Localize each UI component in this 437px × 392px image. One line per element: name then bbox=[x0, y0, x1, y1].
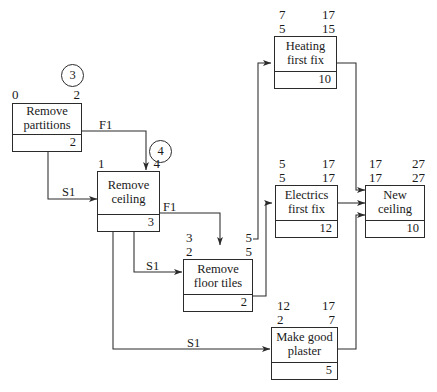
node-remove-floor-tiles[interactable]: Remove floor tiles 2 bbox=[183, 259, 253, 312]
remove-floor-tiles-duration: 2 bbox=[184, 294, 252, 311]
new-ceiling-late-finish: 27 bbox=[393, 171, 425, 184]
node-remove-ceiling[interactable]: Remove ceiling 3 bbox=[97, 171, 160, 232]
remove-ceiling-name-line1: Remove bbox=[108, 179, 150, 192]
remove-floor-tiles-late-start: 2 bbox=[186, 245, 193, 258]
heating-first-fix-late-finish: 15 bbox=[303, 22, 335, 35]
electrics-first-fix-early-start: 5 bbox=[279, 157, 286, 170]
heating-first-fix-label: Heating first fix bbox=[275, 37, 336, 71]
make-good-plaster-name-line1: Make good bbox=[276, 331, 333, 344]
remove-floor-tiles-name-line2: floor tiles bbox=[194, 277, 242, 290]
link-label-partitions-to-ceiling-finish: F1 bbox=[99, 119, 112, 132]
new-ceiling-name-line1: New bbox=[383, 189, 407, 202]
link-label-partitions-to-ceiling-start: S1 bbox=[62, 186, 75, 199]
electrics-first-fix-label: Electrics first fix bbox=[276, 186, 337, 220]
heating-first-fix-name-line1: Heating bbox=[286, 40, 326, 53]
remove-partitions-name-line1: Remove bbox=[26, 105, 68, 118]
new-ceiling-early-finish: 27 bbox=[393, 157, 425, 170]
new-ceiling-early-start: 17 bbox=[369, 157, 382, 170]
wire-floor-tiles-to-heating bbox=[253, 63, 271, 239]
new-ceiling-late-start: 17 bbox=[369, 171, 382, 184]
node-make-good-plaster[interactable]: Make good plaster 5 bbox=[271, 327, 338, 380]
remove-ceiling-duration: 3 bbox=[98, 214, 159, 231]
make-good-plaster-name-line2: plaster bbox=[288, 345, 321, 358]
wire-plaster-to-new-ceiling bbox=[338, 215, 365, 349]
remove-ceiling-early-start: 1 bbox=[98, 157, 105, 170]
electrics-first-fix-late-start: 5 bbox=[279, 171, 286, 184]
wire-heating-to-new-ceiling bbox=[337, 63, 365, 190]
link-label-ceiling-to-plaster-start: S1 bbox=[187, 337, 200, 350]
node-new-ceiling[interactable]: New ceiling 10 bbox=[365, 185, 425, 238]
node-heating-first-fix[interactable]: Heating first fix 10 bbox=[274, 36, 337, 89]
remove-ceiling-float-circle: 4 bbox=[149, 140, 172, 163]
remove-partitions-name-line2: partitions bbox=[23, 119, 70, 132]
make-good-plaster-late-finish: 7 bbox=[303, 313, 335, 326]
heating-first-fix-duration: 10 bbox=[275, 71, 336, 88]
new-ceiling-label: New ceiling bbox=[366, 186, 424, 220]
remove-partitions-float-circle: 3 bbox=[61, 64, 84, 87]
link-label-ceiling-to-floor-tiles-finish: F1 bbox=[163, 201, 176, 214]
node-remove-partitions[interactable]: Remove partitions 2 bbox=[12, 103, 82, 152]
heating-first-fix-early-start: 7 bbox=[279, 8, 286, 21]
wire-floor-tiles-to-electrics bbox=[253, 203, 272, 296]
electrics-first-fix-duration: 12 bbox=[276, 220, 337, 237]
remove-ceiling-label: Remove ceiling bbox=[98, 172, 159, 214]
new-ceiling-duration: 10 bbox=[366, 220, 424, 237]
make-good-plaster-early-start: 12 bbox=[277, 299, 290, 312]
precedence-network-diagram: 0 2 3 Remove partitions 2 1 4 4 Remove c… bbox=[0, 0, 437, 392]
link-label-ceiling-to-floor-tiles-start: S1 bbox=[146, 260, 159, 273]
electrics-first-fix-name-line1: Electrics bbox=[285, 189, 329, 202]
remove-partitions-duration: 2 bbox=[13, 134, 81, 151]
remove-partitions-label: Remove partitions bbox=[13, 104, 81, 134]
make-good-plaster-label: Make good plaster bbox=[272, 328, 337, 362]
heating-first-fix-early-finish: 17 bbox=[303, 8, 335, 21]
heating-first-fix-late-start: 5 bbox=[279, 22, 286, 35]
remove-floor-tiles-label: Remove floor tiles bbox=[184, 260, 252, 294]
remove-floor-tiles-early-finish: 5 bbox=[220, 231, 252, 244]
electrics-first-fix-name-line2: first fix bbox=[288, 203, 325, 216]
make-good-plaster-duration: 5 bbox=[272, 362, 337, 379]
remove-floor-tiles-early-start: 3 bbox=[186, 231, 193, 244]
new-ceiling-name-line2: ceiling bbox=[378, 203, 412, 216]
make-good-plaster-early-finish: 17 bbox=[303, 299, 335, 312]
electrics-first-fix-early-finish: 17 bbox=[303, 157, 335, 170]
electrics-first-fix-late-finish: 17 bbox=[303, 171, 335, 184]
make-good-plaster-late-start: 2 bbox=[277, 313, 284, 326]
remove-partitions-early-start: 0 bbox=[12, 88, 19, 101]
remove-ceiling-name-line2: ceiling bbox=[111, 193, 145, 206]
heating-first-fix-name-line2: first fix bbox=[287, 54, 324, 67]
remove-floor-tiles-name-line1: Remove bbox=[197, 263, 239, 276]
node-electrics-first-fix[interactable]: Electrics first fix 12 bbox=[275, 185, 338, 238]
remove-partitions-early-finish: 2 bbox=[48, 88, 80, 101]
remove-floor-tiles-late-finish: 5 bbox=[220, 245, 252, 258]
